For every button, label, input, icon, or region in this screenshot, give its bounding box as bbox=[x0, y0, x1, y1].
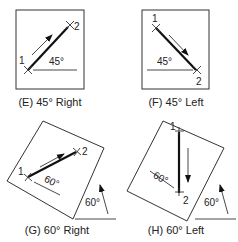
panel-e: 1 2 45° (E) 45° Right bbox=[16, 10, 84, 108]
panel-e-angle-label: 45° bbox=[49, 56, 64, 67]
panel-f-cross-2 bbox=[193, 66, 201, 74]
panel-f-point-1-label: 1 bbox=[152, 13, 158, 24]
panel-f-angle-label: 45° bbox=[157, 56, 172, 67]
diagram-canvas: 1 2 45° (E) 45° Right 1 2 45° (F) 45° Le… bbox=[0, 0, 238, 242]
panel-h-point-2-label: 2 bbox=[183, 195, 189, 206]
panel-g-angle-label: 60° bbox=[43, 173, 61, 190]
panel-e-point-1-label: 1 bbox=[19, 55, 25, 66]
panel-h-point-1-label: 1 bbox=[170, 121, 176, 132]
panel-g-line bbox=[28, 152, 76, 177]
panel-h-ref-angle-label: 60° bbox=[204, 197, 219, 208]
panel-f-point-2-label: 2 bbox=[196, 76, 202, 87]
panel-e-point-2-label: 2 bbox=[74, 21, 80, 32]
panel-h-caption: (H) 60° Left bbox=[148, 224, 204, 236]
panel-g-cross-1 bbox=[24, 173, 32, 181]
panel-g: 1 2 60° 60° (G) 60° Right bbox=[7, 121, 116, 236]
panel-g-caption: (G) 60° Right bbox=[25, 224, 89, 236]
panel-e-caption: (E) 45° Right bbox=[18, 96, 81, 108]
panel-f-caption: (F) 45° Left bbox=[148, 96, 203, 108]
panel-g-point-2-label: 2 bbox=[82, 146, 88, 157]
panel-g-point-1-label: 1 bbox=[18, 166, 24, 177]
panel-e-cross-2 bbox=[66, 21, 74, 29]
panel-g-ref-angle-label: 60° bbox=[85, 197, 100, 208]
panel-h: 1 2 60° 60° (H) 60° Left bbox=[127, 121, 236, 236]
panel-f-cross-1 bbox=[152, 24, 160, 32]
panel-h-small-arrow-icon bbox=[220, 185, 228, 214]
panel-f: 1 2 45° (F) 45° Left bbox=[142, 10, 209, 108]
panel-e-cross-1 bbox=[24, 66, 32, 74]
panel-e-direction-arrow-icon bbox=[32, 35, 52, 55]
panel-g-small-arrow-icon bbox=[100, 185, 108, 214]
